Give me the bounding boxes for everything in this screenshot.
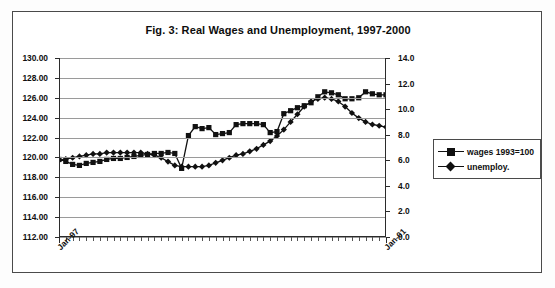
data-point-marker bbox=[247, 148, 253, 154]
x-axis-tick bbox=[379, 237, 380, 241]
x-axis-tick bbox=[114, 237, 115, 241]
y-axis-right-tick bbox=[386, 186, 390, 187]
data-point-marker bbox=[328, 96, 334, 102]
data-point-marker bbox=[124, 150, 130, 156]
x-axis-tick bbox=[311, 237, 312, 241]
x-axis-tick bbox=[120, 237, 121, 241]
x-axis-tick bbox=[270, 237, 271, 241]
data-point-marker bbox=[193, 124, 198, 129]
gridline bbox=[59, 217, 386, 218]
y-axis-right-tick-label: 10.0 bbox=[390, 104, 414, 114]
x-axis-tick bbox=[229, 237, 230, 241]
data-point-marker bbox=[220, 131, 225, 136]
x-axis-tick bbox=[127, 237, 128, 241]
y-axis-left-tick bbox=[55, 78, 59, 79]
x-axis-tick bbox=[202, 237, 203, 241]
series-plot bbox=[59, 58, 386, 237]
data-point-marker bbox=[185, 164, 191, 170]
square-marker-icon bbox=[438, 146, 464, 157]
y-axis-left-labels: 112.00114.00116.00118.00120.00122.00124.… bbox=[13, 12, 55, 191]
y-axis-left-tick-label: 116.00 bbox=[23, 192, 55, 202]
x-axis-tick bbox=[284, 237, 285, 241]
data-point-marker bbox=[77, 163, 82, 168]
x-axis-tick bbox=[277, 237, 278, 241]
data-point-marker bbox=[260, 142, 266, 148]
y-axis-right-tick-label: 4.0 bbox=[390, 181, 410, 191]
data-point-marker bbox=[90, 151, 96, 157]
y-axis-left-tick bbox=[55, 157, 59, 158]
x-axis-tick bbox=[209, 237, 210, 241]
chart-title: Fig. 3: Real Wages and Unemployment, 199… bbox=[13, 24, 543, 36]
x-axis-tick bbox=[345, 237, 346, 241]
data-point-marker bbox=[172, 151, 177, 156]
gridline bbox=[59, 118, 386, 119]
x-axis-tick bbox=[216, 237, 217, 241]
data-point-marker bbox=[206, 162, 212, 168]
x-axis-tick bbox=[318, 237, 319, 241]
y-axis-left-tick bbox=[55, 118, 59, 119]
plot-area bbox=[59, 58, 386, 237]
x-axis-tick bbox=[250, 237, 251, 241]
x-axis-tick bbox=[168, 237, 169, 241]
x-axis-tick bbox=[257, 237, 258, 241]
x-axis-tick bbox=[148, 237, 149, 241]
data-point-marker bbox=[104, 150, 110, 156]
y-axis-right-tick-label: 8.0 bbox=[390, 130, 410, 140]
x-axis-tick bbox=[79, 237, 80, 241]
data-point-marker bbox=[362, 119, 368, 125]
data-point-marker bbox=[192, 164, 198, 170]
x-axis-tick bbox=[325, 237, 326, 241]
y-axis-right-line bbox=[385, 58, 386, 237]
y-axis-left-tick bbox=[55, 138, 59, 139]
data-point-marker bbox=[253, 146, 259, 152]
y-axis-left-tick-label: 130.00 bbox=[22, 53, 55, 63]
x-axis-tick bbox=[263, 237, 264, 241]
x-axis-tick bbox=[359, 237, 360, 241]
y-axis-right-tick-label: 2.0 bbox=[390, 206, 410, 216]
y-axis-right-labels: 0.02.04.06.08.010.012.014.0 bbox=[390, 12, 424, 191]
x-axis-tick bbox=[86, 237, 87, 241]
gridline bbox=[59, 138, 386, 139]
data-point-marker bbox=[172, 162, 178, 168]
data-point-marker bbox=[84, 161, 89, 166]
data-point-marker bbox=[288, 108, 293, 113]
y-axis-left-tick bbox=[55, 197, 59, 198]
x-axis-tick bbox=[195, 237, 196, 241]
data-point-marker bbox=[281, 111, 286, 116]
y-axis-right-tick bbox=[386, 160, 390, 161]
gridline bbox=[59, 98, 386, 99]
data-point-marker bbox=[254, 121, 259, 126]
data-point-marker bbox=[90, 160, 95, 165]
legend-item-wages: wages 1993=100 bbox=[438, 144, 536, 159]
x-axis-tick bbox=[134, 237, 135, 241]
x-axis-tick bbox=[188, 237, 189, 241]
x-axis-tick bbox=[297, 237, 298, 241]
x-axis-tick bbox=[304, 237, 305, 241]
diamond-marker-icon bbox=[438, 161, 464, 172]
data-point-marker bbox=[240, 151, 246, 157]
data-point-marker bbox=[213, 132, 218, 137]
legend-label-wages: wages 1993=100 bbox=[467, 147, 534, 157]
x-axis-tick bbox=[175, 237, 176, 241]
gridline bbox=[59, 197, 386, 198]
gridline bbox=[59, 78, 386, 79]
data-point-marker bbox=[97, 151, 103, 157]
gridline bbox=[59, 157, 386, 158]
x-axis-tick bbox=[352, 237, 353, 241]
y-axis-left-tick-label: 114.00 bbox=[23, 212, 55, 222]
data-point-marker bbox=[363, 89, 368, 94]
y-axis-left-tick bbox=[55, 58, 59, 59]
y-axis-left-tick bbox=[55, 237, 59, 238]
x-axis-tick bbox=[338, 237, 339, 241]
x-axis-tick bbox=[100, 237, 101, 241]
y-axis-left-tick-label: 120.00 bbox=[22, 152, 55, 162]
y-axis-left-tick-label: 124.00 bbox=[22, 113, 55, 123]
data-point-marker bbox=[329, 90, 334, 95]
figure-frame: Fig. 3: Real Wages and Unemployment, 199… bbox=[12, 11, 542, 273]
gridline bbox=[59, 177, 386, 178]
data-point-marker bbox=[234, 122, 239, 127]
data-point-marker bbox=[165, 150, 170, 155]
x-axis-tick bbox=[332, 237, 333, 241]
data-point-marker bbox=[261, 122, 266, 127]
data-point-marker bbox=[199, 126, 204, 131]
